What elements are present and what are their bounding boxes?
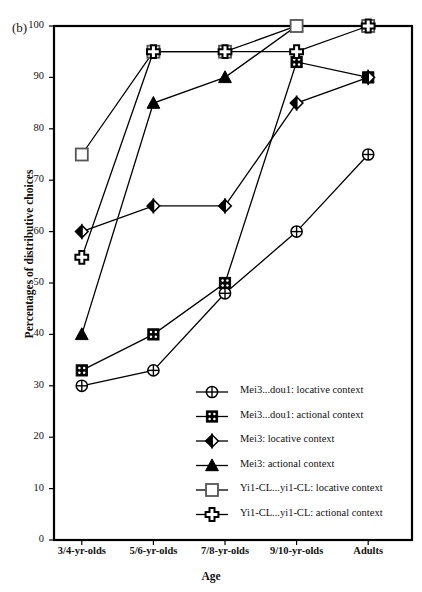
series-marker-group-5 bbox=[76, 20, 374, 161]
legend-label-1: Mei3...dou1: locative context bbox=[240, 384, 363, 395]
legend-label-6: Yi1-CL...yi1-CL: actional context bbox=[240, 507, 383, 518]
open-square-marker bbox=[291, 20, 303, 32]
y-tick-label-0: 0 bbox=[14, 533, 44, 544]
legend-label-4: Mei3: actional context bbox=[240, 458, 334, 469]
y-tick-label-70: 70 bbox=[14, 173, 44, 184]
series-marker-group-3 bbox=[76, 71, 375, 238]
half-filled-diamond-marker-right bbox=[82, 225, 88, 238]
series-line-6 bbox=[82, 26, 368, 257]
y-tick-label-20: 20 bbox=[14, 430, 44, 441]
filled-square-dotted-marker bbox=[148, 329, 159, 340]
y-tick-label-30: 30 bbox=[14, 379, 44, 390]
filled-triangle-marker bbox=[219, 71, 232, 83]
filled-square-dotted-marker bbox=[219, 277, 230, 288]
series-marker-group-6 bbox=[75, 20, 374, 264]
square-dot bbox=[221, 284, 224, 287]
filled-triangle-marker bbox=[147, 97, 160, 109]
half-filled-diamond-marker-left bbox=[76, 225, 82, 238]
series-markers bbox=[75, 19, 374, 391]
square-dot bbox=[83, 372, 86, 375]
y-tick-label-10: 10 bbox=[14, 482, 44, 493]
y-tick-label-60: 60 bbox=[14, 225, 44, 236]
square-dot bbox=[213, 413, 216, 416]
square-dot bbox=[293, 63, 296, 66]
square-dot bbox=[208, 418, 211, 421]
square-dot bbox=[298, 63, 301, 66]
open-square-marker bbox=[206, 484, 218, 496]
legend-label-2: Mei3...dou1: actional context bbox=[240, 409, 363, 420]
legend-label-5: Yi1-CL...yi1-CL: locative context bbox=[240, 482, 383, 493]
open-square-marker bbox=[76, 149, 88, 161]
y-tick-label-40: 40 bbox=[14, 327, 44, 338]
square-dot bbox=[155, 336, 158, 339]
filled-square-dotted-marker bbox=[206, 411, 217, 422]
series-marker-group-2 bbox=[76, 56, 374, 376]
square-dot bbox=[150, 336, 153, 339]
square-dot bbox=[213, 418, 216, 421]
half-filled-diamond-marker-right bbox=[153, 200, 159, 213]
square-dot bbox=[221, 279, 224, 282]
y-tick-label-100: 100 bbox=[14, 19, 44, 30]
square-dot bbox=[155, 331, 158, 334]
square-dot bbox=[226, 279, 229, 282]
square-dot bbox=[226, 284, 229, 287]
figure-panel-b: (b) Percentages of distributive choices … bbox=[0, 0, 422, 592]
filled-square-dotted-marker bbox=[76, 365, 87, 376]
cross-plus-marker bbox=[206, 508, 219, 521]
half-filled-diamond-marker-right bbox=[297, 97, 303, 110]
half-filled-diamond-marker-right bbox=[212, 435, 218, 448]
plot-frame bbox=[54, 26, 412, 540]
half-filled-diamond-marker-left bbox=[147, 200, 153, 213]
x-tick-label-5: Adults bbox=[323, 545, 413, 556]
square-dot bbox=[78, 372, 81, 375]
half-filled-diamond-marker-left bbox=[219, 200, 225, 213]
square-dot bbox=[208, 413, 211, 416]
y-tick-label-80: 80 bbox=[14, 122, 44, 133]
filled-triangle-marker bbox=[206, 459, 219, 471]
legend bbox=[196, 386, 228, 521]
series-marker-group-1 bbox=[76, 149, 374, 392]
half-filled-diamond-marker-left bbox=[206, 435, 212, 448]
square-dot bbox=[78, 367, 81, 370]
legend-label-3: Mei3: locative context bbox=[240, 433, 334, 444]
filled-triangle-marker bbox=[75, 328, 88, 340]
line-chart-plot bbox=[0, 0, 422, 592]
y-tick-label-90: 90 bbox=[14, 70, 44, 81]
y-tick-label-50: 50 bbox=[14, 276, 44, 287]
cross-plus-marker bbox=[75, 251, 88, 264]
square-dot bbox=[150, 331, 153, 334]
square-dot bbox=[83, 367, 86, 370]
series-line-1 bbox=[82, 155, 368, 386]
